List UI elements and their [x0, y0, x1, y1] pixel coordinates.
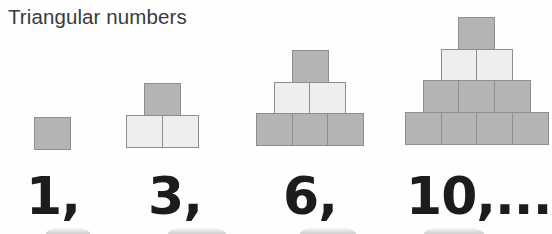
- sequence-label-3: 6,: [283, 170, 337, 222]
- stack-row: [441, 50, 512, 82]
- sequence-label-2: 3,: [148, 170, 202, 222]
- stack-row: [144, 83, 180, 116]
- square-cell: [512, 112, 549, 145]
- square-cell: [458, 80, 495, 113]
- square-cell: [476, 112, 513, 145]
- square-stack-3: [256, 50, 363, 146]
- figure-title: Triangular numbers: [8, 5, 187, 29]
- square-stack-1: [34, 117, 70, 150]
- stack-row: [256, 115, 363, 147]
- square-cell: [292, 113, 329, 146]
- square-stack-4: [405, 17, 547, 145]
- stack-row: [34, 117, 70, 150]
- triangular-numbers-figure: Triangular numbers: [0, 0, 552, 234]
- square-stack-2: [126, 83, 197, 148]
- cropped-edge-mark: [168, 227, 226, 234]
- square-cell: [292, 50, 329, 83]
- square-cell: [144, 83, 181, 116]
- square-cell: [162, 115, 199, 148]
- square-cell: [126, 115, 163, 148]
- square-cell: [405, 112, 442, 145]
- square-cell: [423, 80, 460, 113]
- square-cell: [34, 117, 71, 150]
- square-cell: [309, 82, 346, 115]
- cropped-edge-mark: [424, 227, 484, 234]
- square-cell: [441, 112, 478, 145]
- stack-row: [126, 116, 197, 148]
- square-cell: [476, 49, 513, 82]
- cropped-edge-mark: [46, 227, 90, 234]
- stack-row: [274, 83, 345, 115]
- cropped-edge-mark: [300, 227, 356, 234]
- sequence-label-4: 10,...: [406, 170, 551, 222]
- square-cell: [256, 113, 293, 146]
- square-cell: [441, 49, 478, 82]
- stack-row: [423, 82, 530, 114]
- stack-row: [458, 17, 494, 50]
- square-cell: [327, 113, 364, 146]
- stack-row: [405, 113, 547, 145]
- square-cell: [274, 82, 311, 115]
- sequence-label-1: 1,: [26, 170, 80, 222]
- square-cell: [458, 17, 495, 50]
- square-cell: [494, 80, 531, 113]
- stack-row: [292, 50, 328, 83]
